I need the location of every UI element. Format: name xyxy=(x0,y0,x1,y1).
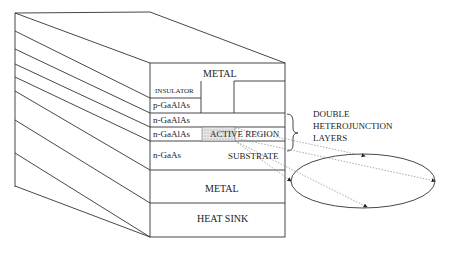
n-gaalas-label-2: n-GaAlAs xyxy=(153,130,190,139)
top-face xyxy=(15,12,285,63)
active-region-label: ACTIVE REGION xyxy=(210,130,279,139)
dh-label-line2: HETEROJUNCTION xyxy=(313,122,393,131)
substrate-label: SUBSTRATE xyxy=(228,152,279,161)
dh-label-line1: DOUBLE xyxy=(313,110,350,119)
emission-ellipse xyxy=(291,154,435,208)
insulator-label: INSULATOR xyxy=(155,88,194,95)
n-gaas-label: n-GaAs xyxy=(153,151,181,160)
p-gaalas-label: p-GaAlAs xyxy=(153,101,190,110)
n-gaalas-label-1: n-GaAlAs xyxy=(153,116,190,125)
side-face-layer-lines xyxy=(15,13,150,237)
heat-sink-label: HEAT SINK xyxy=(197,214,248,224)
bottom-metal-label: METAL xyxy=(205,184,239,194)
dh-label-line3: LAYERS xyxy=(313,134,347,143)
brace-icon xyxy=(287,114,298,151)
top-metal-label: METAL xyxy=(203,69,237,79)
